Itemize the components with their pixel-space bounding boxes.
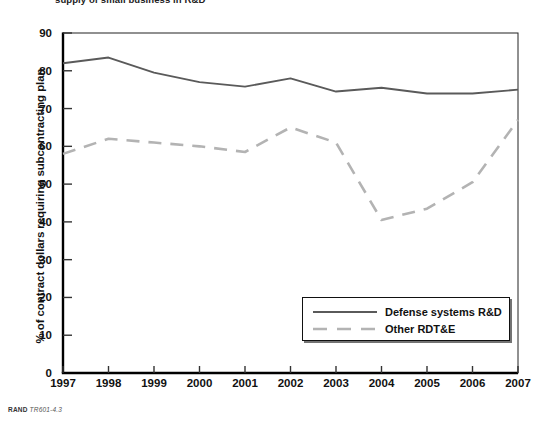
legend-label-defense-systems-rd: Defense systems R&D [379, 306, 502, 318]
legend-swatch-solid-line-icon [311, 306, 379, 318]
chart-legend: Defense systems R&D Other RDT&E [302, 297, 510, 341]
legend-item-1: Other RDT&E [303, 320, 509, 337]
legend-swatch-dashed-line-icon [311, 323, 379, 335]
legend-item-0: Defense systems R&D [303, 303, 509, 320]
series-line-0 [63, 58, 518, 94]
source-brand: RAND [8, 406, 28, 413]
series-line-1 [63, 120, 518, 220]
chart-figure: supply of small business in R&D % of con… [0, 0, 550, 431]
plot-area [0, 0, 550, 431]
legend-label-other-rdte: Other RDT&E [379, 323, 455, 335]
source-note: RAND TR601-4.3 [8, 406, 62, 413]
source-code: TR601-4.3 [30, 406, 63, 413]
